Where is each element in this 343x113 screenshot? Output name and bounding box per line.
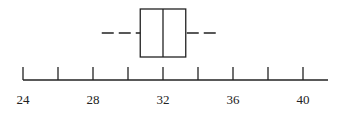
x-axis	[23, 67, 328, 80]
tick-label: 24	[17, 92, 30, 108]
tick-label: 32	[157, 92, 170, 108]
tick-label: 40	[297, 92, 310, 108]
tick-label: 36	[227, 92, 240, 108]
box-plot	[0, 0, 343, 113]
box-and-whiskers	[102, 9, 218, 57]
tick-label: 28	[87, 92, 100, 108]
